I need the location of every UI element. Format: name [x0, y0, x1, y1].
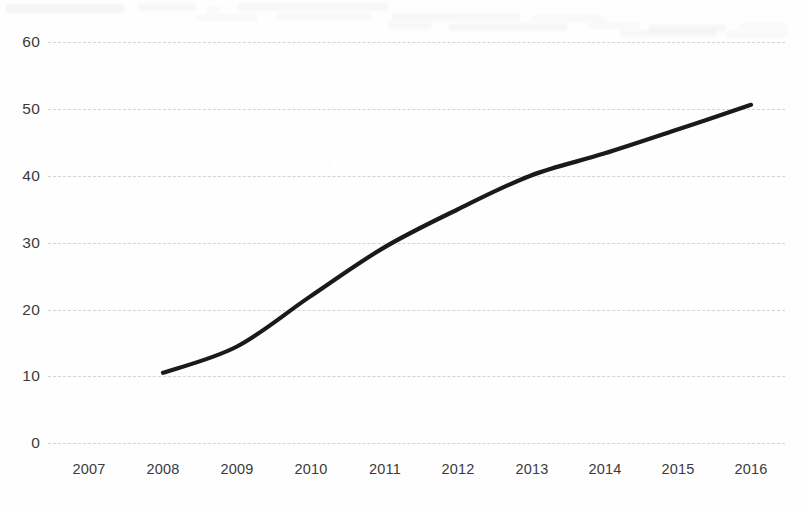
data-series-line — [163, 105, 751, 373]
line-chart-svg — [0, 0, 803, 511]
chart-page: 60 50 40 30 20 10 0 2007 2008 2009 2010 … — [0, 0, 803, 511]
chart-plot-area: 60 50 40 30 20 10 0 2007 2008 2009 2010 … — [0, 0, 803, 511]
